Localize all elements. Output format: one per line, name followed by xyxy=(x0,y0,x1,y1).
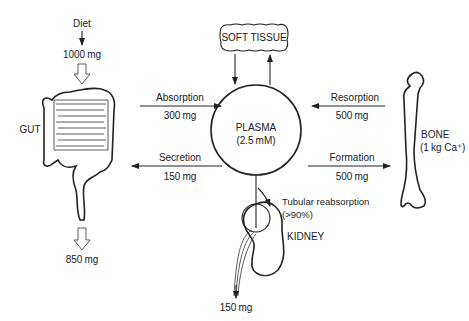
absorption-label: Absorption xyxy=(156,92,204,103)
gut-intake-arrow-icon xyxy=(74,64,90,84)
gut-label: GUT xyxy=(19,124,40,135)
resorption-amount: 500 mg xyxy=(336,110,369,121)
kidney-output-amount: 150 mg xyxy=(220,302,253,313)
formation-amount: 500 mg xyxy=(336,171,369,182)
formation-label: Formation xyxy=(329,152,374,163)
gut-output-amount: 850 mg xyxy=(66,254,99,265)
absorption-amount: 300 mg xyxy=(164,110,197,121)
tubular-reabsorption-amount: (>90%) xyxy=(282,209,313,220)
kidney-illustration-icon xyxy=(234,202,284,296)
bone-label: BONE xyxy=(421,129,450,140)
kidney-label: KIDNEY xyxy=(287,231,325,242)
plasma-label: PLASMA xyxy=(236,122,277,133)
bone-illustration-icon xyxy=(401,72,425,208)
secretion-label: Secretion xyxy=(159,152,201,163)
calcium-homeostasis-diagram: Diet 1000 mg GUT 850 mg Absorption 300 m… xyxy=(0,0,469,321)
diet-amount: 1000 mg xyxy=(63,49,101,60)
gut-excretion-arrow-icon xyxy=(74,228,90,250)
tubular-reabsorption-label: Tubular reabsorption xyxy=(282,196,369,207)
secretion-amount: 150 mg xyxy=(164,171,197,182)
plasma-concentration: (2.5 mM) xyxy=(236,135,275,146)
soft-tissue-label: SOFT TISSUE xyxy=(221,32,287,43)
gut-illustration-icon xyxy=(43,88,115,220)
resorption-label: Resorption xyxy=(331,92,379,103)
diet-label: Diet xyxy=(73,18,91,29)
bone-content: (1 kg Ca⁺) xyxy=(420,142,465,153)
